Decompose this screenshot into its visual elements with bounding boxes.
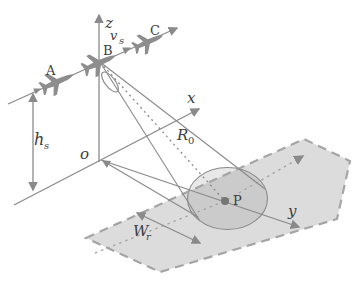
aircraft-b-label: B (103, 43, 113, 58)
x-axis-label: x (187, 89, 196, 107)
target-point (221, 197, 229, 205)
aircraft-icon-a (36, 64, 78, 99)
aircraft-a-label: A (45, 63, 56, 78)
diagram-canvas: z x y o A B C P v s h s R 0 W r (0, 0, 352, 284)
velocity-label: v (110, 28, 118, 43)
aircraft-c-label: C (150, 23, 160, 38)
target-label: P (233, 193, 242, 208)
height-label: h (34, 130, 44, 149)
origin-label: o (80, 145, 89, 163)
y-axis-label: y (287, 202, 297, 220)
slant-range-label-sub: 0 (188, 135, 194, 146)
slant-range-label: R (176, 126, 188, 144)
beam-angle-arc (99, 69, 122, 94)
height-label-sub: s (44, 140, 49, 151)
velocity-label-sub: s (119, 35, 124, 46)
aircraft-icon-c (129, 26, 167, 58)
sar-geometry-diagram: z x y o A B C P v s h s R 0 W r (0, 0, 352, 284)
x-axis (14, 109, 199, 205)
ground-range-line (103, 161, 198, 217)
flight-direction-arrow (33, 86, 42, 95)
